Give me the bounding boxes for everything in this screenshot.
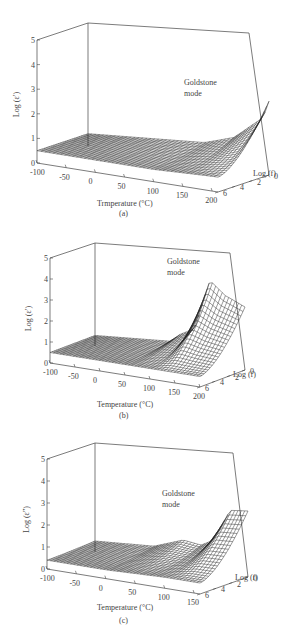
panel-c: 012345-100-500501001500246 Log (ε″) Gold… [0, 0, 291, 641]
caption-c: (c) [119, 616, 128, 625]
surface-mesh [47, 510, 248, 583]
annotation-line1: Goldstone [162, 489, 195, 498]
x-tick-label: -50 [69, 579, 80, 588]
x-tick-label: 150 [187, 598, 199, 607]
annotation-line2: mode [162, 500, 180, 509]
x-tick-label: 100 [158, 593, 170, 602]
z-tick-label: 1 [41, 543, 45, 552]
x-tick-label: 0 [99, 584, 103, 593]
f-tick-label: 6 [205, 591, 209, 600]
x-axis-label-c: Temperature (°C) [97, 603, 153, 612]
f-tick-label: 4 [221, 585, 225, 594]
y-axis-label-c: Log (ε″) [22, 506, 31, 533]
x-tick-label: 50 [128, 588, 136, 597]
z-tick-label: 5 [41, 455, 45, 464]
z-tick-label: 3 [41, 499, 45, 508]
x-tick-label: -100 [40, 574, 55, 583]
z-axis-label-c: Log (f) [235, 574, 258, 582]
z-tick-label: 0 [41, 565, 45, 574]
surface-plot-c: 012345-100-500501001500246 [0, 0, 291, 641]
z-tick-label: 4 [41, 477, 45, 486]
goldstone-annotation-c: Goldstone mode [162, 488, 195, 510]
z-tick-label: 2 [41, 521, 45, 530]
